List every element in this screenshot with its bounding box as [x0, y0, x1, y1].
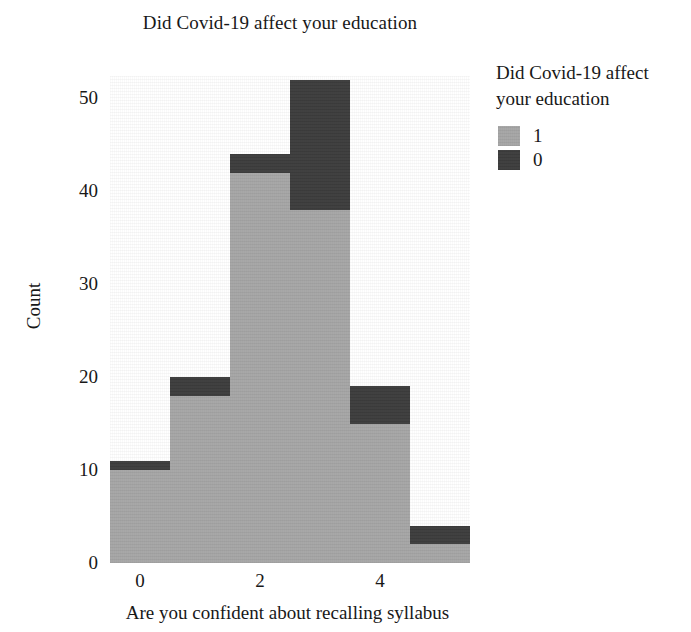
- chart-title: Did Covid-19 affect your education: [0, 12, 560, 34]
- x-axis-title: Are you confident about recalling syllab…: [0, 602, 575, 624]
- y-tick-label: 0: [50, 552, 98, 574]
- x-tick-label: 4: [360, 570, 400, 592]
- y-tick-label: 40: [50, 180, 98, 202]
- histogram-bar: [290, 76, 350, 563]
- histogram-bar: [350, 76, 410, 563]
- bar-segment-0: [410, 526, 470, 545]
- bars-layer: [110, 76, 470, 563]
- bar-segment-0: [230, 154, 290, 173]
- y-tick-label: 20: [50, 366, 98, 388]
- legend-item: 1: [498, 124, 686, 148]
- x-tick-label: 2: [240, 570, 280, 592]
- x-axis-tick-labels: 024: [110, 570, 470, 596]
- chart-figure: Did Covid-19 affect your education Count…: [0, 0, 691, 632]
- y-axis-title: Count: [23, 256, 45, 356]
- histogram-bar: [170, 76, 230, 563]
- legend-item: 0: [498, 148, 686, 172]
- paper-grain-overlay: [498, 126, 520, 146]
- legend-title: Did Covid-19 affect your education: [496, 60, 676, 112]
- histogram-bar: [230, 76, 290, 563]
- paper-grain-overlay: [498, 150, 520, 170]
- bar-segment-0: [290, 80, 350, 210]
- bar-segment-1: [170, 396, 230, 563]
- plot-area: [110, 76, 470, 563]
- y-tick-label: 30: [50, 273, 98, 295]
- bar-segment-0: [350, 386, 410, 423]
- bar-segment-1: [290, 210, 350, 563]
- bar-segment-0: [170, 377, 230, 396]
- histogram-bar: [410, 76, 470, 563]
- bar-segment-1: [110, 470, 170, 563]
- y-axis-tick-labels: 01020304050: [50, 76, 98, 563]
- y-tick-label: 50: [50, 87, 98, 109]
- legend-swatch-0: [498, 150, 520, 170]
- y-tick-label: 10: [50, 459, 98, 481]
- bar-segment-1: [410, 544, 470, 563]
- bar-segment-1: [230, 173, 290, 563]
- legend: Did Covid-19 affect your education 10: [496, 60, 686, 172]
- legend-label: 0: [533, 150, 543, 170]
- bar-segment-1: [350, 424, 410, 563]
- histogram-bar: [110, 76, 170, 563]
- legend-label: 1: [533, 126, 543, 146]
- legend-items: 10: [498, 124, 686, 172]
- legend-swatch-1: [498, 126, 520, 146]
- x-tick-label: 0: [120, 570, 160, 592]
- bar-segment-0: [110, 461, 170, 470]
